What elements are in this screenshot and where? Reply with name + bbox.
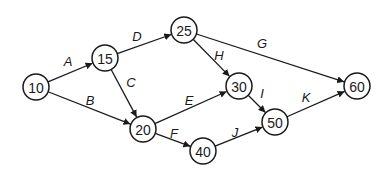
node-label: 50 [267,115,283,131]
edges-layer [48,34,345,146]
edge-label-f: F [170,126,179,141]
node-10: 10 [23,74,49,100]
node-label: 20 [135,122,151,138]
node-60: 60 [344,73,370,99]
edge-arrow-k [287,91,345,116]
node-label: 25 [176,23,192,39]
node-label: 60 [349,79,365,95]
activity-network-diagram: ABCDEFGHIJK 1015252030405060 [0,0,390,170]
node-label: 10 [28,80,44,96]
edge-label-i: I [260,86,264,101]
node-50: 50 [262,109,288,135]
node-label: 40 [195,144,211,160]
edge-label-g: G [257,36,267,51]
node-label: 15 [97,51,113,67]
edge-label-j: J [231,125,239,140]
edge-label-c: C [126,75,136,90]
nodes-layer: 1015252030405060 [23,17,370,164]
node-30: 30 [226,73,252,99]
edge-label-k: K [302,90,312,105]
edge-label-h: H [214,48,224,63]
node-20: 20 [130,116,156,142]
edge-label-e: E [185,93,194,108]
edge-label-b: B [86,93,95,108]
node-40: 40 [190,138,216,164]
edge-label-a: A [63,54,73,69]
edge-arrow-d [117,35,171,54]
edge-label-d: D [132,29,141,44]
node-15: 15 [92,45,118,71]
edge-arrow-h [193,39,229,76]
node-label: 30 [231,79,247,95]
node-25: 25 [171,17,197,43]
edge-arrow-j [215,127,262,146]
